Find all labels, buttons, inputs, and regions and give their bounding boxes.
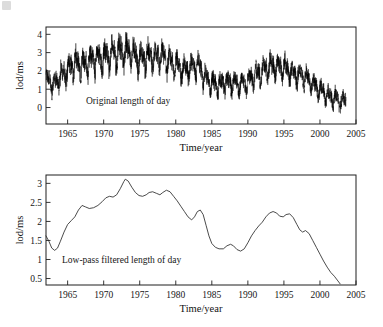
plot-frame [46,175,356,285]
length-of-day-figure: 1965197019751980198519901995200020050123… [0,0,383,327]
x-axis-title: Time/year [180,142,223,153]
chart-panel-original-lod: 1965197019751980198519901995200020050123… [0,0,383,163]
lowpass-lod-trace [46,179,340,284]
x-tick-label: 1985 [202,129,221,139]
original-lod-chart: 1965197019751980198519901995200020050123… [0,0,383,163]
x-tick-label: 1970 [94,129,113,139]
x-tick-label: 1965 [58,290,77,300]
x-tick-label: 1985 [202,290,221,300]
y-axis-title: lod/ms [14,216,25,245]
y-axis-title: lod/ms [14,61,25,90]
x-tick-label: 2005 [347,290,366,300]
y-tick-label: 4 [37,30,42,40]
x-tick-label: 1990 [238,290,257,300]
x-tick-label: 1980 [166,290,185,300]
y-tick-label: 1 [37,255,42,265]
x-tick-label: 1990 [238,129,257,139]
x-tick-label: 1970 [94,290,113,300]
y-tick-label: 1 [37,85,42,95]
lowpass-lod-chart: 1965197019751980198519901995200020050.51… [0,163,383,327]
x-tick-label: 2000 [310,290,329,300]
y-tick-label: 0.5 [30,274,42,284]
x-tick-label: 2000 [310,129,329,139]
x-tick-label: 1975 [130,290,149,300]
y-tick-label: 2.5 [30,198,42,208]
plot-annotation: Original length of day [86,96,170,106]
y-tick-label: 2 [37,217,42,227]
x-tick-label: 2005 [347,129,366,139]
chart-panel-lowpass-lod: 1965197019751980198519901995200020050.51… [0,163,383,327]
x-tick-label: 1980 [166,129,185,139]
plot-annotation: Low-pass filtered length of day [62,255,181,265]
x-tick-label: 1995 [274,290,293,300]
x-tick-label: 1965 [58,129,77,139]
x-axis-title: Time/year [180,303,223,314]
y-tick-label: 3 [37,179,42,189]
y-tick-label: 3 [37,48,42,58]
x-tick-label: 1995 [274,129,293,139]
y-tick-label: 1.5 [30,236,42,246]
x-tick-label: 1975 [130,129,149,139]
y-tick-label: 2 [37,66,42,76]
y-tick-label: 0 [37,103,42,113]
